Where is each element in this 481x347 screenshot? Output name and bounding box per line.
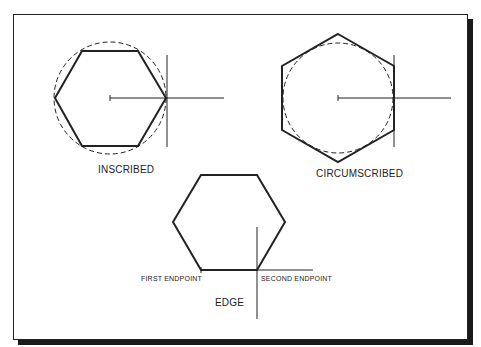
label-inscribed: INSCRIBED: [98, 164, 154, 175]
circumscribed-diagram: [282, 34, 451, 162]
hexagon: [173, 175, 285, 270]
inscribed-diagram: [54, 42, 224, 154]
diagram-canvas: [0, 0, 481, 347]
label-second-endpoint: SECOND ENDPOINT: [261, 275, 332, 282]
label-circumscribed: CIRCUMSCRIBED: [316, 168, 403, 179]
label-first-endpoint: FIRST ENDPOINT: [141, 275, 202, 282]
label-edge: EDGE: [215, 297, 244, 308]
